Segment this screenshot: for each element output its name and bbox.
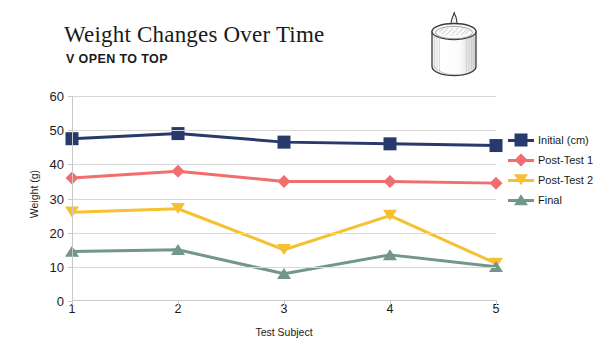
data-point-marker xyxy=(384,137,397,150)
data-point-marker xyxy=(490,139,503,152)
legend-item-label: Final xyxy=(538,194,562,206)
candle-sketch-icon xyxy=(420,6,490,80)
y-tick-mark xyxy=(68,267,73,268)
data-point-marker xyxy=(384,175,397,188)
legend-marker-icon xyxy=(508,153,534,167)
legend-item-initial-cm[interactable]: Initial (cm) xyxy=(508,130,608,150)
x-tick-mark xyxy=(72,300,73,305)
legend-marker-icon xyxy=(508,133,534,147)
legend-marker-icon xyxy=(508,193,534,207)
y-tick-mark xyxy=(68,199,73,200)
y-axis-title: Weight (g) xyxy=(28,170,40,218)
legend-item-post-test-2[interactable]: Post-Test 2 xyxy=(508,170,608,190)
legend-item-final[interactable]: Final xyxy=(508,190,608,210)
data-point-marker xyxy=(172,127,185,140)
legend-item-label: Post-Test 1 xyxy=(538,154,593,166)
chart-legend: Initial (cm)Post-Test 1Post-Test 2Final xyxy=(508,130,608,210)
data-point-marker xyxy=(514,174,528,185)
x-axis-title: Test Subject xyxy=(72,326,496,338)
legend-item-post-test-1[interactable]: Post-Test 1 xyxy=(508,150,608,170)
chart-container: Weight Changes Over Time V OPEN TO TOP xyxy=(0,0,610,351)
data-point-marker xyxy=(514,194,528,205)
data-point-marker xyxy=(490,177,503,190)
chart-title: Weight Changes Over Time xyxy=(64,22,324,48)
y-tick-mark xyxy=(68,130,73,131)
gridline xyxy=(72,233,496,234)
series-line xyxy=(72,209,496,264)
x-tick-mark xyxy=(284,300,285,305)
x-tick-mark xyxy=(496,300,497,305)
gridline xyxy=(72,164,496,165)
legend-item-label: Post-Test 2 xyxy=(538,174,593,186)
x-tick-mark xyxy=(178,300,179,305)
plot-area: 6050403020100 12345 Test Subject Weight … xyxy=(72,96,496,301)
legend-item-label: Initial (cm) xyxy=(538,134,589,146)
gridline xyxy=(72,130,496,131)
data-point-marker xyxy=(278,175,291,188)
y-tick-label: 10 xyxy=(30,259,64,274)
gridline xyxy=(72,96,496,97)
data-point-marker xyxy=(172,165,185,178)
y-tick-label: 20 xyxy=(30,225,64,240)
gridline xyxy=(72,267,496,268)
y-tick-mark xyxy=(68,233,73,234)
legend-marker-icon xyxy=(508,173,534,187)
y-tick-mark xyxy=(68,164,73,165)
y-tick-mark xyxy=(68,96,73,97)
x-tick-mark xyxy=(390,300,391,305)
data-point-marker xyxy=(278,136,291,149)
series-post-test-1 xyxy=(66,165,503,190)
y-tick-label: 60 xyxy=(30,89,64,104)
gridline xyxy=(72,199,496,200)
chart-subtitle: V OPEN TO TOP xyxy=(66,52,168,66)
data-point-marker xyxy=(515,154,528,167)
data-point-marker xyxy=(515,134,528,147)
y-tick-label: 50 xyxy=(30,123,64,138)
